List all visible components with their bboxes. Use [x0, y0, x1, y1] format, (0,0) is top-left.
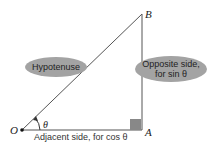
opposite-line1: Opposite side,	[142, 59, 200, 69]
hypotenuse-label: Hypotenuse	[25, 57, 87, 77]
origin-dot	[20, 128, 24, 132]
opposite-label: Opposite side,for sin θ	[135, 56, 207, 82]
adjacent-label: Adjacent side, for cos θ	[34, 132, 128, 142]
angle-theta: θ	[43, 119, 48, 130]
point-b: B	[145, 8, 152, 20]
right-angle-marker	[130, 119, 141, 130]
opposite-line2: for sin θ	[155, 69, 187, 79]
point-a: A	[145, 126, 152, 138]
opposite-text: Opposite side,for sin θ	[142, 59, 200, 79]
point-o: O	[10, 124, 18, 136]
triangle-diagram: Hypotenuse Opposite side,for sin θ Adjac…	[0, 0, 218, 151]
hypotenuse-text: Hypotenuse	[32, 62, 80, 72]
